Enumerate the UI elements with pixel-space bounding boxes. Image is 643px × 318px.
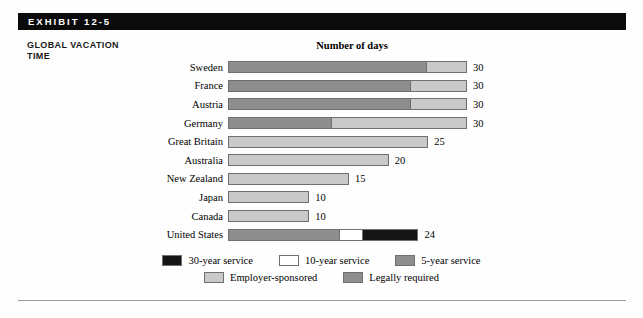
stacked-bar	[228, 80, 467, 92]
legend-swatch-employer-sponsored	[204, 272, 224, 283]
bar-value-label: 24	[424, 229, 435, 240]
stacked-bar	[228, 173, 349, 185]
bar-row-label: New Zealand	[0, 173, 228, 184]
bar-row: New Zealand15	[0, 170, 643, 189]
bar-segment-legally-required	[229, 118, 332, 128]
chart-legend: 30-year service10-year service5-year ser…	[0, 252, 643, 286]
stacked-bar	[228, 229, 418, 241]
bar-segment-thirty-year-service	[362, 230, 418, 240]
legend-label: Employer-sponsored	[230, 272, 317, 283]
bar-row: Australia20	[0, 151, 643, 170]
bar-row-label: Canada	[0, 211, 228, 222]
legend-row: 30-year service10-year service5-year ser…	[0, 252, 643, 269]
bar-row: Austria30	[0, 95, 643, 114]
legend-label: 30-year service	[188, 255, 252, 266]
stacked-bar	[228, 117, 467, 129]
bar-segment-employer-sponsored	[410, 81, 466, 91]
bar-row: United States24	[0, 225, 643, 244]
legend-item-ten-year-service: 10-year service	[279, 255, 369, 266]
legend-swatch-ten-year-service	[279, 255, 299, 266]
legend-row: Employer-sponsoredLegally required	[0, 269, 643, 286]
bar-row-label: Germany	[0, 118, 228, 129]
legend-swatch-thirty-year-service	[162, 255, 182, 266]
bar-value-label: 30	[473, 99, 484, 110]
bar-value-label: 15	[355, 173, 366, 184]
bar-rows-container: Sweden30France30Austria30Germany30Great …	[0, 58, 643, 244]
bar-segment-employer-sponsored	[229, 211, 308, 221]
exhibit-side-title-line1: GLOBAL VACATION	[27, 40, 157, 51]
legend-label: 5-year service	[421, 255, 480, 266]
bar-row: Great Britain25	[0, 132, 643, 151]
bar-segment-legally-required	[229, 81, 411, 91]
legend-item-legally-required: Legally required	[343, 272, 439, 283]
bar-segment-employer-sponsored	[229, 192, 308, 202]
bar-row: Canada10	[0, 207, 643, 226]
chart-title: Number of days	[232, 40, 472, 51]
bar-segment-employer-sponsored	[229, 174, 348, 184]
bar-row-label: Japan	[0, 192, 228, 203]
bar-segment-employer-sponsored	[229, 155, 388, 165]
legend-swatch-legally-required	[343, 272, 363, 283]
bar-row-label: France	[0, 80, 228, 91]
exhibit-header-band: EXHIBIT 12-5	[18, 13, 626, 30]
stacked-bar	[228, 210, 309, 222]
exhibit-number-label: EXHIBIT 12-5	[28, 16, 111, 27]
bar-row-label: Sweden	[0, 62, 228, 73]
stacked-bar	[228, 61, 467, 73]
stacked-bar	[228, 98, 467, 110]
stacked-bar	[228, 191, 309, 203]
bar-value-label: 30	[473, 80, 484, 91]
bar-row-label: United States	[0, 229, 228, 240]
stacked-bar	[228, 136, 428, 148]
legend-item-five-year-service: 5-year service	[395, 255, 480, 266]
bar-value-label: 30	[473, 118, 484, 129]
legend-item-thirty-year-service: 30-year service	[162, 255, 252, 266]
bottom-rule-divider	[18, 300, 626, 301]
bar-value-label: 10	[315, 192, 326, 203]
legend-label: 10-year service	[305, 255, 369, 266]
bar-segment-legally-required	[229, 99, 411, 109]
bar-value-label: 20	[395, 155, 406, 166]
bar-row-label: Australia	[0, 155, 228, 166]
legend-item-employer-sponsored: Employer-sponsored	[204, 272, 317, 283]
bar-value-label: 30	[473, 62, 484, 73]
bar-segment-employer-sponsored	[229, 137, 427, 147]
legend-label: Legally required	[369, 272, 439, 283]
bar-segment-ten-year-service	[339, 230, 363, 240]
bar-segment-employer-sponsored	[426, 62, 466, 72]
bar-value-label: 10	[315, 211, 326, 222]
stacked-bar	[228, 154, 389, 166]
bar-row-label: Austria	[0, 99, 228, 110]
bar-segment-five-year-service	[229, 230, 340, 240]
legend-swatch-five-year-service	[395, 255, 415, 266]
bar-segment-employer-sponsored	[410, 99, 466, 109]
bar-row: Sweden30	[0, 58, 643, 77]
bar-segment-employer-sponsored	[331, 118, 466, 128]
bar-row: Germany30	[0, 114, 643, 133]
bar-value-label: 25	[434, 136, 445, 147]
bar-row: France30	[0, 77, 643, 96]
bar-segment-legally-required	[229, 62, 427, 72]
exhibit-page: EXHIBIT 12-5 GLOBAL VACATION TIME Number…	[0, 0, 643, 318]
bar-row-label: Great Britain	[0, 136, 228, 147]
bar-row: Japan10	[0, 188, 643, 207]
